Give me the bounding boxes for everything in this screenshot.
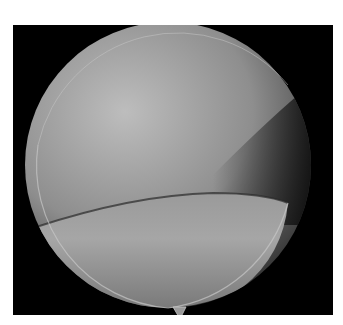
arthroscopy-view [13,25,333,315]
arthroscopy-image-frame [13,25,333,315]
figure-caption [13,318,333,325]
scope-orientation-notch [173,307,186,315]
